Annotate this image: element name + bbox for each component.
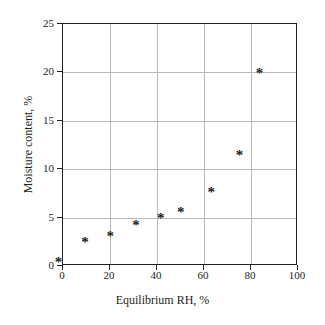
x-axis-tick-label: 40 xyxy=(139,268,173,282)
x-axis-tick-label: 80 xyxy=(233,268,267,282)
x-axis-title: Equilibrium RH, % xyxy=(0,293,325,308)
x-axis-tick-label: 60 xyxy=(186,268,220,282)
y-axis-tick xyxy=(57,168,62,169)
y-axis-tick-label: 0 xyxy=(22,259,54,271)
y-axis-title: Moisture content, % xyxy=(21,45,36,245)
gridline-vertical xyxy=(204,24,205,264)
y-axis-tick xyxy=(57,265,62,266)
y-axis-tick xyxy=(57,120,62,121)
x-axis-tick-label: 20 xyxy=(92,268,126,282)
plot-area xyxy=(62,23,297,265)
y-axis-tick xyxy=(57,217,62,218)
y-axis-tick-label: 25 xyxy=(22,17,54,29)
x-axis-tick-label: 100 xyxy=(280,268,314,282)
chart-figure: ********* 0204060801000510152025 Equilib… xyxy=(0,0,325,325)
gridline-vertical xyxy=(157,24,158,264)
y-axis-tick xyxy=(57,71,62,72)
gridline-horizontal xyxy=(63,169,296,170)
gridline-vertical xyxy=(251,24,252,264)
gridline-horizontal xyxy=(63,121,296,122)
y-axis-tick xyxy=(57,23,62,24)
